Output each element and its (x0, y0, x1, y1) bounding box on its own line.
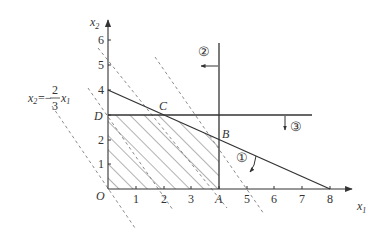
svg-text:6: 6 (271, 192, 277, 206)
svg-text:7: 7 (299, 192, 305, 206)
svg-text:6: 6 (98, 33, 104, 47)
svg-text:8: 8 (327, 192, 333, 206)
x-tick-labels: 1 2 3 5 6 7 8 (133, 192, 333, 206)
point-b-label: B (222, 127, 230, 141)
constraint-2-marker: ② (198, 44, 210, 59)
constraint-3-marker: ③ (290, 119, 302, 134)
svg-text:5: 5 (98, 58, 104, 72)
svg-text:4: 4 (98, 83, 104, 97)
svg-text:3: 3 (188, 192, 194, 206)
svg-text:x2: x2 (27, 91, 37, 106)
svg-text:5: 5 (244, 192, 250, 206)
origin-label: O (96, 189, 105, 203)
svg-text:2: 2 (52, 83, 58, 97)
constraint-1-marker: ① (236, 150, 248, 165)
lp-diagram: ② ③ ① x2 x1 O 1 2 3 5 6 7 8 A 1 2 4 5 6 … (0, 0, 387, 246)
svg-text:3: 3 (52, 99, 58, 113)
point-d-label: D (93, 109, 103, 123)
point-a-label: A (214, 192, 223, 206)
feasible-region (108, 115, 219, 189)
point-c-label: C (159, 99, 168, 113)
objective-line-label: x2 =− 2 3 x1 (27, 83, 70, 113)
svg-text:2: 2 (161, 192, 167, 206)
svg-text:1: 1 (133, 192, 139, 206)
svg-text:x1: x1 (60, 91, 70, 106)
x-axis-label: x1 (356, 199, 366, 215)
svg-text:2: 2 (98, 133, 104, 147)
svg-text:1: 1 (98, 157, 104, 171)
svg-text:=−: =− (38, 91, 52, 105)
constraint-1-arrow (250, 156, 256, 172)
y-axis-label: x2 (89, 15, 99, 31)
